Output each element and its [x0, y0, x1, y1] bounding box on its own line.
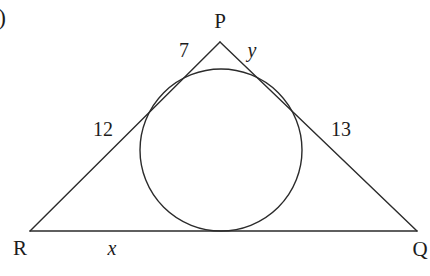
- length-label-13: 13: [331, 119, 351, 139]
- side-PQ: [220, 42, 417, 231]
- length-label-y: y: [248, 40, 257, 60]
- length-label-7: 7: [179, 40, 189, 60]
- triangle-incircle-drawing: [0, 0, 430, 276]
- triangle-outline: [30, 42, 417, 231]
- vertex-label-P: P: [214, 11, 226, 32]
- length-label-12: 12: [93, 119, 113, 139]
- vertex-label-Q: Q: [412, 239, 427, 260]
- inscribed-circle: [140, 69, 302, 231]
- vertex-label-R: R: [13, 238, 27, 259]
- side-PR: [30, 42, 220, 231]
- geometry-figure: ) P Q R 7 y 12 13 x: [0, 0, 430, 276]
- length-label-x: x: [108, 238, 117, 258]
